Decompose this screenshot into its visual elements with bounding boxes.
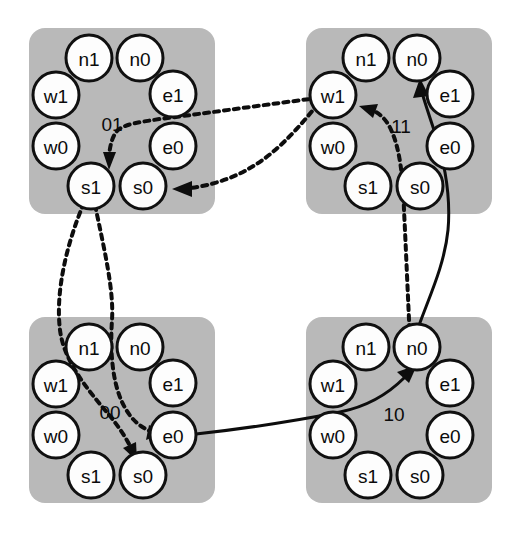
node-label: n1	[355, 49, 376, 70]
node-label: w0	[43, 137, 68, 158]
block-11-node-e1[interactable]: e1	[427, 71, 473, 117]
block-00-node-e0[interactable]: e0	[150, 412, 196, 458]
node-label: s0	[133, 177, 153, 198]
node-label: s1	[81, 466, 101, 487]
block-01-node-e0[interactable]: e0	[150, 123, 196, 169]
block-11-node-w0[interactable]: w0	[310, 123, 356, 169]
block-00-node-s1[interactable]: s1	[68, 452, 114, 498]
node-label: w1	[43, 375, 68, 396]
node-label: e1	[439, 374, 460, 395]
block-10-node-n1[interactable]: n1	[343, 324, 389, 370]
node-label: s0	[410, 466, 430, 487]
node-label: n1	[78, 338, 99, 359]
block-10-label: 10	[383, 404, 404, 425]
node-label: s1	[358, 466, 378, 487]
block-11-node-s1[interactable]: s1	[345, 163, 391, 209]
block-01-label: 01	[101, 114, 122, 135]
node-label: n0	[406, 49, 427, 70]
node-label: e0	[162, 137, 183, 158]
node-label: n1	[355, 338, 376, 359]
block-11-node-w1[interactable]: w1	[310, 72, 356, 118]
node-label: e1	[439, 85, 460, 106]
block-00-node-w1[interactable]: w1	[33, 361, 79, 407]
block-00-label: 00	[99, 402, 120, 423]
block-00-node-n0[interactable]: n0	[117, 324, 163, 370]
node-label: w0	[320, 137, 345, 158]
block-10-node-w1[interactable]: w1	[310, 361, 356, 407]
node-label: n0	[129, 338, 150, 359]
block-10-node-e1[interactable]: e1	[427, 360, 473, 406]
block-10-node-w0[interactable]: w0	[310, 412, 356, 458]
block-00-node-n1[interactable]: n1	[66, 324, 112, 370]
block-01-node-w0[interactable]: w0	[33, 123, 79, 169]
block-01-node-w1[interactable]: w1	[33, 72, 79, 118]
node-label: e0	[162, 426, 183, 447]
node-label: n0	[406, 338, 427, 359]
node-label: s0	[410, 177, 430, 198]
node-label: e0	[439, 137, 460, 158]
node-label: w0	[43, 426, 68, 447]
block-11-node-n1[interactable]: n1	[343, 35, 389, 81]
block-01-node-s1[interactable]: s1	[68, 163, 114, 209]
block-10-node-e0[interactable]: e0	[427, 412, 473, 458]
node-label: e1	[162, 85, 183, 106]
node-label: e0	[439, 426, 460, 447]
node-label: w1	[320, 375, 345, 396]
block-11-label: 11	[391, 116, 411, 137]
node-label: w0	[320, 426, 345, 447]
node-label: e1	[162, 374, 183, 395]
node-label: n0	[129, 49, 150, 70]
node-label: n1	[78, 49, 99, 70]
block-11-node-e0[interactable]: e0	[427, 123, 473, 169]
block-10-node-n0[interactable]: n0	[394, 324, 440, 370]
block-00-node-w0[interactable]: w0	[33, 412, 79, 458]
diagram-svg: n1 n0 e1 e0 s0 s1	[0, 0, 510, 537]
block-01-node-n0[interactable]: n0	[117, 35, 163, 81]
block-11-node-s0[interactable]: s0	[397, 163, 443, 209]
block-01-node-n1[interactable]: n1	[66, 35, 112, 81]
block-10-node-s0[interactable]: s0	[397, 452, 443, 498]
node-label: s0	[133, 466, 153, 487]
block-11-node-n0[interactable]: n0	[394, 35, 440, 81]
node-label: s1	[358, 177, 378, 198]
node-label: s1	[81, 177, 101, 198]
block-01-node-e1[interactable]: e1	[150, 71, 196, 117]
block-00-node-s0[interactable]: s0	[120, 452, 166, 498]
diagram-canvas: n1 n0 e1 e0 s0 s1	[0, 0, 510, 537]
node-label: w1	[320, 86, 345, 107]
node-label: w1	[43, 86, 68, 107]
block-10-node-s1[interactable]: s1	[345, 452, 391, 498]
block-00-node-e1[interactable]: e1	[150, 360, 196, 406]
block-01-node-s0[interactable]: s0	[120, 163, 166, 209]
